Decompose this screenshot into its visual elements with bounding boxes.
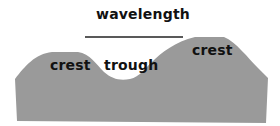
right-crest-label: crest	[192, 42, 233, 58]
wavelength-label: wavelength	[96, 6, 190, 22]
left-crest-label: crest	[50, 57, 91, 73]
trough-label: trough	[104, 57, 158, 73]
